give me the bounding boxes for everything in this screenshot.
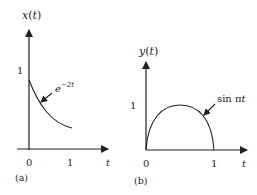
panel-a-caption: (a) bbox=[15, 172, 28, 183]
panel-a-annotation-arrow bbox=[41, 93, 52, 102]
panel-b: y(t) 1 0 1 t (b) sin πt bbox=[130, 45, 247, 186]
panel-b-ytick-1: 1 bbox=[130, 100, 136, 111]
panel-a-x-label: t bbox=[106, 157, 111, 168]
panel-b-xtick-0: 0 bbox=[143, 158, 149, 169]
panel-a-y-label: x(t) bbox=[22, 9, 41, 22]
panel-a-annotation: e−2t bbox=[55, 81, 74, 94]
panel-b-y-label: y(t) bbox=[138, 45, 158, 58]
panel-b-xtick-1: 1 bbox=[211, 158, 217, 169]
panel-b-annotation-arrow bbox=[204, 104, 215, 115]
panel-a-ytick-1: 1 bbox=[17, 65, 23, 76]
panel-a-xtick-0: 0 bbox=[26, 157, 32, 168]
panel-b-x-label: t bbox=[242, 158, 247, 169]
panel-b-caption: (b) bbox=[134, 175, 148, 186]
panel-b-annotation: sin πt bbox=[217, 93, 247, 104]
panel-b-curve bbox=[146, 105, 214, 150]
panel-a: x(t) 1 0 1 t (a) e−2t bbox=[15, 9, 111, 183]
figure: x(t) 1 0 1 t (a) e−2t y(t) 1 0 1 t (b) s… bbox=[0, 0, 257, 195]
panel-a-xtick-1: 1 bbox=[67, 157, 73, 168]
